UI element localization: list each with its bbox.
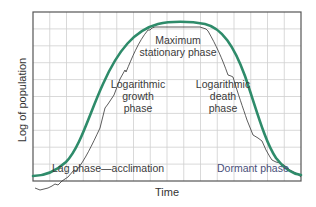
max-phase-label-2: stationary phase: [139, 46, 216, 58]
max-phase-label-1: Maximum: [155, 34, 201, 46]
growth-phase-label-3: phase: [124, 102, 153, 114]
lag-phase-label: Lag phase—acclimation: [52, 162, 164, 174]
dormant-phase-label: Dormant phase: [217, 162, 289, 174]
death-phase-label-3: phase: [209, 102, 238, 114]
population-growth-chart: Maximum stationary phase Logarithmic gro…: [0, 0, 316, 207]
death-phase-label-1: Logarithmic: [196, 78, 250, 90]
death-phase-label-2: death: [210, 90, 236, 102]
x-axis-label: Time: [155, 186, 179, 198]
growth-phase-label-1: Logarithmic: [111, 78, 165, 90]
growth-phase-label-2: growth: [122, 90, 154, 102]
y-axis-label: Log of population: [16, 58, 28, 142]
